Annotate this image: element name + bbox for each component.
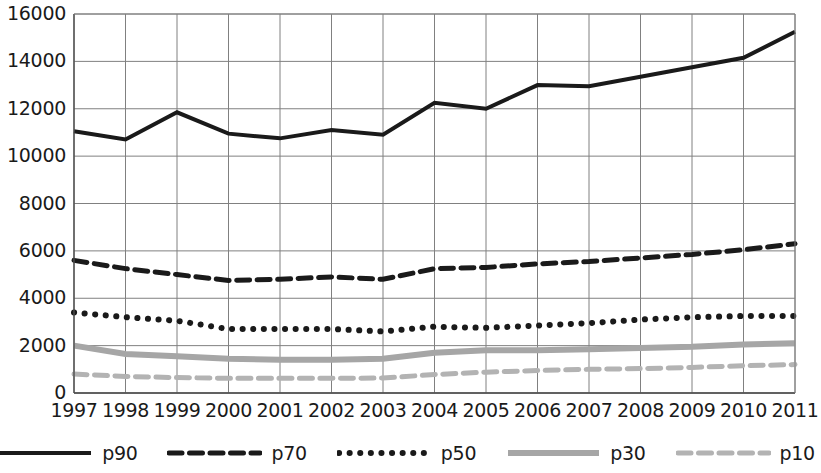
x-tick-label: 2007: [563, 399, 615, 421]
y-tick-label: 10000: [0, 144, 72, 166]
gridlines: [74, 14, 795, 393]
legend-label-p10: p10: [780, 442, 815, 464]
legend-item-p50[interactable]: p50: [337, 442, 476, 464]
y-tick-label: 4000: [0, 286, 72, 308]
legend-item-p70[interactable]: p70: [167, 442, 306, 464]
legend-label-p70: p70: [271, 442, 306, 464]
chart-legend: p90p70p50p30p10: [0, 432, 813, 473]
x-tick-label: 2008: [615, 399, 667, 421]
legend-item-p30[interactable]: p30: [506, 442, 645, 464]
y-tick-label: 12000: [0, 97, 72, 119]
x-tick-label: 1998: [100, 399, 152, 421]
x-tick-label: 1997: [48, 399, 100, 421]
legend-item-p90[interactable]: p90: [0, 442, 137, 464]
legend-swatch-p90: [0, 446, 93, 460]
legend-label-p90: p90: [102, 442, 137, 464]
x-tick-label: 2001: [254, 399, 306, 421]
legend-swatch-p30: [506, 446, 601, 460]
y-tick-label: 16000: [0, 2, 72, 24]
legend-swatch-p50: [337, 446, 432, 460]
x-tick-label: 2010: [718, 399, 770, 421]
x-tick-label: 2000: [203, 399, 255, 421]
x-tick-label: 2002: [306, 399, 358, 421]
x-tick-label: 2006: [512, 399, 564, 421]
y-tick-label: 8000: [0, 192, 72, 214]
legend-swatch-p10: [676, 446, 771, 460]
legend-swatch-p70: [167, 446, 262, 460]
y-tick-label: 14000: [0, 49, 72, 71]
x-tick-label: 1999: [151, 399, 203, 421]
x-tick-label: 2009: [666, 399, 718, 421]
x-tick-label: 2011: [769, 399, 821, 421]
y-tick-label: 2000: [0, 334, 72, 356]
legend-item-p10[interactable]: p10: [676, 442, 815, 464]
x-tick-label: 2003: [357, 399, 409, 421]
legend-label-p30: p30: [610, 442, 645, 464]
x-tick-label: 2005: [460, 399, 512, 421]
y-tick-label: 6000: [0, 239, 72, 261]
legend-label-p50: p50: [441, 442, 476, 464]
x-tick-label: 2004: [409, 399, 461, 421]
